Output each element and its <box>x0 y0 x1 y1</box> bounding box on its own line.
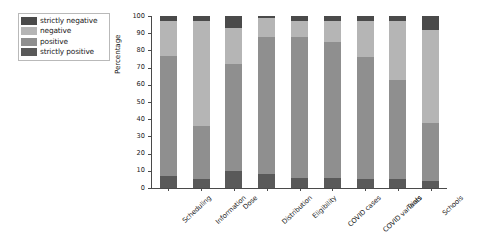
legend-swatch-icon <box>21 17 37 25</box>
bar-segment <box>193 16 210 21</box>
chart-legend: strictly negativenegativepositivestrictl… <box>18 13 110 61</box>
y-axis-tick-label: 30 <box>137 132 145 141</box>
legend-item: strictly positive <box>21 47 107 57</box>
bar-column <box>193 16 210 188</box>
x-axis-tick-label: Information <box>214 194 247 226</box>
bar-segment <box>389 179 406 188</box>
legend-item: strictly negative <box>21 16 107 26</box>
y-axis-tick-mark <box>148 102 151 103</box>
stacked-bar-chart: strictly negativenegativepositivestrictl… <box>0 0 485 241</box>
y-axis-tick-mark <box>148 119 151 120</box>
bar-segment <box>357 16 374 21</box>
x-axis-tick-label: Schools <box>440 194 464 217</box>
legend-item-label: negative <box>40 27 71 35</box>
bar-segment <box>389 80 406 180</box>
bar-column <box>324 16 341 188</box>
bar-segment <box>389 21 406 79</box>
y-axis-tick-mark <box>148 50 151 51</box>
bar-column <box>291 16 308 188</box>
legend-swatch-icon <box>21 38 37 46</box>
bar-segment <box>324 21 341 42</box>
y-axis-tick-mark <box>148 33 151 34</box>
bar-segment <box>357 179 374 188</box>
bar-segment <box>422 16 439 30</box>
bar-segment <box>389 16 406 21</box>
bar-column <box>258 16 275 188</box>
y-axis-tick-label: 60 <box>137 80 145 89</box>
bar-segment <box>225 28 242 64</box>
bar-segment <box>291 21 308 36</box>
bar-column <box>357 16 374 188</box>
bar-column <box>160 16 177 188</box>
y-axis-tick-label: 10 <box>137 166 145 175</box>
y-axis-tick-label: 90 <box>137 29 145 38</box>
x-axis-tick-mark <box>332 188 333 191</box>
bar-segment <box>422 123 439 181</box>
bar-segment <box>357 21 374 57</box>
y-axis-tick-mark <box>148 171 151 172</box>
bar-segment <box>160 16 177 21</box>
bar-segment <box>193 126 210 179</box>
bar-segment <box>160 176 177 188</box>
bar-segment <box>225 171 242 188</box>
x-axis-tick-mark <box>234 188 235 191</box>
x-axis-tick-label: Distribution <box>280 194 314 226</box>
bar-column <box>389 16 406 188</box>
x-axis-tick-mark <box>300 188 301 191</box>
legend-item-label: positive <box>40 38 68 46</box>
y-axis-tick-label: 20 <box>137 149 145 158</box>
legend-item: negative <box>21 26 107 36</box>
bar-segment <box>160 21 177 55</box>
bar-segment <box>357 57 374 179</box>
bar-segment <box>324 16 341 21</box>
bar-segment <box>193 21 210 126</box>
bar-segment <box>422 181 439 188</box>
bar-column <box>422 16 439 188</box>
y-axis-tick-label: 100 <box>132 12 145 21</box>
x-axis-tick-label: Eligibility <box>311 194 338 220</box>
x-axis-tick-label: Scheduling <box>181 194 213 225</box>
legend-item: positive <box>21 37 107 47</box>
legend-item-label: strictly negative <box>40 17 97 25</box>
y-axis-tick-label: 50 <box>137 98 145 107</box>
bar-segment <box>225 64 242 171</box>
bar-segment <box>291 37 308 178</box>
legend-swatch-icon <box>21 27 37 35</box>
bar-column <box>225 16 242 188</box>
x-axis-tick-mark <box>431 188 432 191</box>
x-axis-tick-mark <box>267 188 268 191</box>
x-axis-tick-mark <box>168 188 169 191</box>
y-axis-tick-mark <box>148 136 151 137</box>
bar-segment <box>422 30 439 123</box>
y-axis-tick-mark <box>148 188 151 189</box>
bar-segment <box>160 56 177 176</box>
bar-segment <box>324 42 341 178</box>
y-axis-tick-label: 40 <box>137 115 145 124</box>
y-axis-tick-mark <box>148 154 151 155</box>
y-axis-tick-mark <box>148 68 151 69</box>
y-axis-tick-label: 80 <box>137 46 145 55</box>
bar-segment <box>225 16 242 28</box>
y-axis-tick-label: 70 <box>137 63 145 72</box>
x-axis-tick-label: COVID cases <box>347 194 383 229</box>
bar-segment <box>291 178 308 188</box>
y-axis-label: Percentage <box>113 35 122 74</box>
legend-swatch-icon <box>21 48 37 56</box>
bar-segment <box>258 37 275 175</box>
bar-segment <box>258 18 275 37</box>
x-axis-tick-mark <box>201 188 202 191</box>
bar-segment <box>324 178 341 188</box>
bar-segment <box>258 174 275 188</box>
y-axis-tick-mark <box>148 16 151 17</box>
x-axis-tick-mark <box>365 188 366 191</box>
bar-segment <box>291 16 308 21</box>
y-axis-tick-mark <box>148 85 151 86</box>
bar-segment <box>258 16 275 18</box>
x-axis-tick-mark <box>398 188 399 191</box>
bar-segment <box>193 179 210 188</box>
y-axis-tick-label: 0 <box>141 184 145 193</box>
legend-item-label: strictly positive <box>40 48 94 56</box>
plot-area <box>152 16 447 188</box>
